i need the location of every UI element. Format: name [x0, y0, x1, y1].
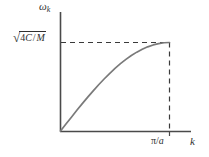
y-axis-tick-label: √4C/M: [13, 31, 46, 44]
dispersion-chart-figure: ωk √4C/M π/a k: [0, 0, 209, 157]
y-axis-label-subscript: k: [47, 5, 51, 14]
y-axis-label: ωk: [39, 1, 50, 14]
lattice-constant-a: a: [159, 135, 164, 146]
radicand-symbol-c: C: [25, 32, 32, 43]
radicand-group: 4C/M: [19, 31, 46, 43]
x-axis-tick-label: π/a: [151, 136, 164, 146]
plot-area: [0, 0, 209, 157]
radicand-symbol-m: M: [37, 32, 45, 43]
dispersion-curve: [61, 43, 170, 132]
x-axis-label: k: [190, 136, 195, 147]
y-axis-label-omega: ω: [39, 0, 47, 12]
